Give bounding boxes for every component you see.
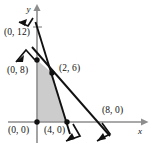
point-label-0-12: (0, 12) (4, 28, 30, 38)
vertex-dot-0-0 (34, 119, 39, 124)
vertex-dot-0-8 (34, 57, 39, 62)
callout-pointer-0-8 (16, 50, 35, 62)
x-axis-label: x (137, 126, 142, 136)
point-label-8-0: (8, 0) (102, 106, 123, 116)
vertex-dot-4-0 (64, 119, 69, 124)
y-axis-label: y (26, 4, 31, 14)
graph-figure: y x (0, 12) (0, 8) (2, 6) (0, 0) (4, 0) … (0, 0, 153, 150)
callout-pointer-8-0 (97, 123, 110, 141)
point-label-2-6: (2, 6) (59, 64, 80, 74)
x-axis (8, 118, 149, 125)
point-label-0-0: (0, 0) (8, 126, 29, 136)
point-label-0-8: (0, 8) (7, 66, 28, 76)
point-label-4-0: (4, 0) (44, 126, 65, 136)
vertex-dot-2-6 (49, 70, 54, 75)
callout-pointer-0-12 (19, 18, 33, 26)
